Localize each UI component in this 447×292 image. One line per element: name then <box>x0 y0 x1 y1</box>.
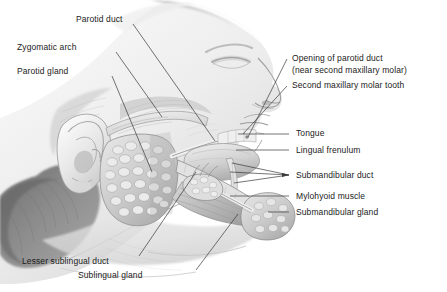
label-tongue: Tongue <box>296 128 325 139</box>
leader-arrowheads <box>282 173 289 177</box>
figure-canvas: Parotid duct Zygomatic arch Parotid glan… <box>0 0 447 292</box>
parotid-gland <box>100 132 180 226</box>
label-opening-of-parotid-duct-line2: (near second maxillary molar) <box>292 65 407 76</box>
label-zygomatic-arch: Zygomatic arch <box>17 42 77 53</box>
label-submandibular-gland: Submandibular gland <box>296 207 378 218</box>
label-submandibular-duct: Submandibular duct <box>296 170 373 181</box>
label-opening-of-parotid-duct-line1: Opening of parotid duct <box>292 53 383 64</box>
label-lingual-frenulum: Lingual frenulum <box>296 145 360 156</box>
label-parotid-duct: Parotid duct <box>76 14 123 25</box>
label-parotid-gland: Parotid gland <box>17 66 68 77</box>
label-second-maxillary-molar-tooth: Second maxillary molar tooth <box>292 80 404 91</box>
label-lesser-sublingual-duct: Lesser sublingual duct <box>22 256 109 267</box>
submandibular-gland <box>241 193 295 240</box>
label-mylohyoid-muscle: Mylohyoid muscle <box>296 191 365 202</box>
label-sublingual-gland: Sublingual gland <box>78 270 142 281</box>
